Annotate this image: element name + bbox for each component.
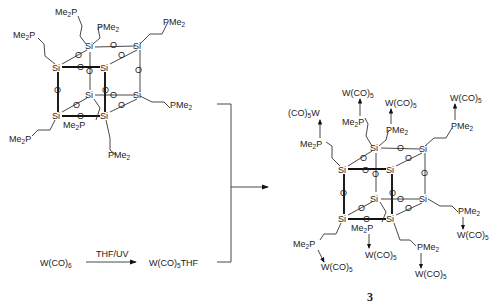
compound-number: 3	[367, 290, 373, 304]
svg-text:Si: Si	[133, 90, 141, 100]
svg-text:Si: Si	[338, 214, 346, 224]
svg-text:Si: Si	[85, 90, 93, 100]
reactant-phosphine-labels: Me2P PMe2 PMe2 Me2P PMe2 Me2P Me2P PMe2	[9, 7, 193, 161]
svg-text:Si: Si	[100, 63, 108, 73]
svg-text:Me2P: Me2P	[300, 139, 322, 150]
svg-text:Me2P: Me2P	[351, 223, 373, 234]
svg-text:Si: Si	[419, 194, 427, 204]
svg-text:Si: Si	[133, 41, 141, 51]
svg-text:(CO)5W: (CO)5W	[288, 108, 320, 119]
svg-text:O: O	[135, 65, 142, 75]
svg-text:PMe2: PMe2	[417, 242, 440, 253]
svg-text:W(CO)5: W(CO)5	[365, 250, 397, 261]
svg-text:W(CO)5: W(CO)5	[415, 269, 447, 280]
svg-text:O: O	[75, 50, 82, 60]
product-phosphine-tungsten-labels: (CO)5W Me2P W(CO)5 Me2P W(CO)5 PMe2 W(CO…	[288, 88, 489, 280]
svg-text:Si: Si	[338, 165, 346, 175]
svg-text:O: O	[397, 143, 404, 153]
svg-text:Si: Si	[100, 111, 108, 121]
svg-text:O: O	[54, 85, 61, 95]
product-cage	[320, 118, 458, 246]
svg-text:Me2P: Me2P	[63, 120, 85, 131]
svg-text:Si: Si	[52, 63, 60, 73]
svg-text:Me2P: Me2P	[9, 134, 31, 145]
svg-text:PMe2: PMe2	[163, 17, 186, 28]
svg-text:THF/UV: THF/UV	[96, 249, 129, 259]
svg-text:Si: Si	[85, 41, 93, 51]
svg-text:W(CO)6: W(CO)6	[40, 258, 72, 269]
svg-text:Me2P: Me2P	[293, 239, 315, 250]
svg-text:Si: Si	[419, 144, 427, 154]
svg-text:W(CO)5THF: W(CO)5THF	[149, 258, 199, 269]
svg-text:Si: Si	[370, 194, 378, 204]
svg-text:O: O	[73, 100, 80, 110]
svg-text:O: O	[360, 153, 367, 163]
combining-bracket	[217, 104, 268, 262]
svg-text:W(CO)5: W(CO)5	[450, 93, 482, 104]
svg-text:PMe2: PMe2	[108, 150, 131, 161]
svg-text:PMe2: PMe2	[170, 100, 193, 111]
svg-text:O: O	[421, 168, 428, 178]
svg-text:Si: Si	[386, 165, 394, 175]
svg-text:O: O	[77, 62, 84, 72]
svg-text:O: O	[358, 203, 365, 213]
svg-text:PMe2: PMe2	[97, 22, 120, 33]
svg-text:W(CO)5: W(CO)5	[457, 230, 489, 241]
svg-text:Si: Si	[52, 111, 60, 121]
product-atoms: Si Si Si Si Si Si Si Si O O O O O O O O …	[338, 143, 428, 224]
reactant-atoms: Si Si Si Si Si Si Si Si O O O O O O O O …	[52, 40, 142, 121]
reaction-scheme: Si Si Si Si Si Si Si Si O O O O O O O O …	[0, 0, 498, 307]
svg-text:W(CO)5: W(CO)5	[321, 262, 353, 273]
svg-text:Me2P: Me2P	[55, 7, 77, 18]
svg-text:O: O	[362, 165, 369, 175]
svg-text:O: O	[389, 188, 396, 198]
svg-text:O: O	[110, 40, 117, 50]
svg-text:O: O	[405, 203, 412, 213]
svg-text:W(CO)5: W(CO)5	[385, 98, 417, 109]
svg-text:O: O	[397, 194, 404, 204]
svg-text:O: O	[118, 100, 125, 110]
svg-text:PMe2: PMe2	[451, 121, 474, 132]
svg-text:PMe2: PMe2	[458, 206, 481, 217]
reactant-silsesquioxane-cage	[32, 16, 170, 155]
svg-text:Si: Si	[386, 214, 394, 224]
reagent-step: W(CO)6 THF/UV W(CO)5THF	[40, 249, 199, 269]
svg-text:PMe2: PMe2	[386, 125, 409, 136]
svg-text:O: O	[86, 66, 93, 76]
svg-text:Me2P: Me2P	[13, 30, 35, 41]
svg-text:W(CO)5: W(CO)5	[342, 88, 374, 99]
svg-text:Si: Si	[370, 143, 378, 153]
svg-text:O: O	[340, 188, 347, 198]
svg-text:O: O	[118, 50, 125, 60]
svg-text:O: O	[372, 169, 379, 179]
svg-text:Me2P: Me2P	[342, 117, 364, 128]
svg-text:O: O	[405, 153, 412, 163]
svg-text:O: O	[102, 85, 109, 95]
svg-text:O: O	[110, 90, 117, 100]
